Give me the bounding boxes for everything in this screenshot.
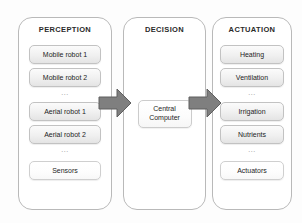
ellipsis-separator: ... — [216, 144, 288, 155]
system-architecture-diagram: PERCEPTION Mobile robot 1 Mobile robot 2… — [0, 0, 302, 223]
actuation-item-list: Heating Ventilation ... Irrigation Nutri… — [213, 41, 291, 203]
panel-title-perception: PERCEPTION — [19, 25, 111, 34]
perception-item-list: Mobile robot 1 Mobile robot 2 ... Aerial… — [19, 41, 111, 203]
list-item[interactable]: Nutrients — [220, 125, 284, 144]
arrow-right-icon-decision-to-actuation — [188, 86, 222, 120]
panel-actuation: ACTUATION Heating Ventilation ... Irriga… — [212, 17, 292, 210]
central-computer-line1: Central — [153, 105, 176, 114]
ellipsis-separator: ... — [29, 87, 101, 98]
list-item[interactable]: Irrigation — [220, 102, 284, 121]
list-item[interactable]: Heating — [220, 45, 284, 64]
list-item[interactable]: Mobile robot 1 — [29, 45, 101, 64]
central-computer-line2: Computer — [149, 114, 180, 123]
list-item[interactable]: Mobile robot 2 — [29, 68, 101, 87]
list-item[interactable]: Ventilation — [220, 68, 284, 87]
list-item[interactable]: Aerial robot 1 — [29, 102, 101, 121]
list-item[interactable]: Sensors — [29, 161, 101, 180]
ellipsis-separator: ... — [29, 144, 101, 155]
central-computer-box[interactable]: Central Computer — [138, 100, 192, 128]
ellipsis-separator: ... — [216, 87, 288, 98]
list-item[interactable]: Aerial robot 2 — [29, 125, 101, 144]
panel-title-actuation: ACTUATION — [213, 25, 291, 34]
arrow-right-icon-perception-to-decision — [98, 86, 132, 120]
list-item[interactable]: Actuators — [220, 161, 284, 180]
panel-title-decision: DECISION — [124, 25, 205, 34]
